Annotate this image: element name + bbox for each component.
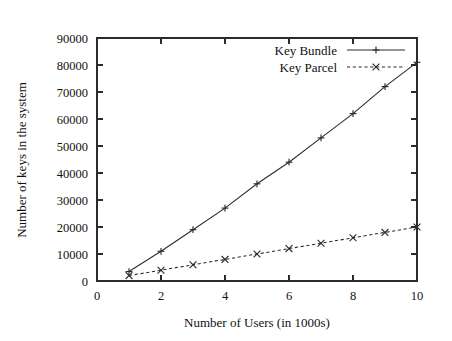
x-axis-title: Number of Users (in 1000s)	[184, 315, 330, 330]
x-tick-label: 0	[94, 289, 100, 303]
x-tick-label: 10	[411, 289, 424, 303]
x-tick-label: 2	[158, 289, 164, 303]
y-tick-label: 70000	[57, 86, 88, 100]
line-chart: 0100002000030000400005000060000700008000…	[0, 0, 452, 341]
legend-label-1: Key Bundle	[275, 43, 338, 58]
legend-label-2: Key Parcel	[280, 60, 338, 75]
x-tick-label: 4	[222, 289, 229, 303]
y-tick-label: 50000	[57, 140, 88, 154]
y-tick-label: 0	[82, 275, 88, 289]
y-tick-label: 40000	[57, 167, 88, 181]
x-tick-label: 6	[286, 289, 292, 303]
y-tick-label: 20000	[57, 221, 88, 235]
y-axis-title: Number of keys in the system	[14, 82, 29, 238]
chart-container: 0100002000030000400005000060000700008000…	[0, 0, 452, 341]
y-tick-label: 30000	[57, 194, 88, 208]
y-tick-label: 10000	[57, 248, 88, 262]
y-tick-label: 80000	[57, 59, 88, 73]
x-tick-label: 8	[350, 289, 356, 303]
y-tick-label: 60000	[57, 113, 88, 127]
y-tick-label: 90000	[57, 32, 88, 46]
